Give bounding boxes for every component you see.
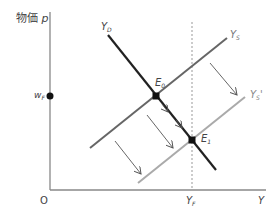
shift-arrow-2 [147, 115, 173, 148]
shift-arrow-1 [210, 63, 237, 95]
shift-arrow-3 [115, 141, 141, 174]
e0-label: E0 [155, 78, 165, 89]
path-arrow-2 [176, 120, 182, 128]
supply-label: YS [230, 30, 240, 41]
demand-label: YD [101, 22, 112, 33]
x-axis-label: Y [258, 196, 264, 206]
demand-line [108, 35, 216, 170]
point-wf [47, 93, 54, 100]
y-axis-label: 物価 p [16, 13, 48, 24]
yf-label: YF [186, 196, 196, 207]
e1-label: E1 [201, 134, 211, 145]
wf-label: wF [34, 91, 45, 101]
point-e1 [189, 137, 196, 144]
origin-label: O [40, 196, 48, 206]
point-e0 [153, 93, 160, 100]
supply-shifted-label: YS' [250, 90, 263, 101]
